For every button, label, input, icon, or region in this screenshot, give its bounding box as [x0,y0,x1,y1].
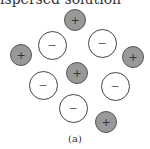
negative-ion-icon: − [38,31,67,60]
positive-ion-icon: + [10,44,32,66]
positive-ion-icon: + [95,111,117,133]
negative-ion-icon: − [88,29,117,58]
positive-ion-icon: + [64,9,86,31]
negative-ion-icon: − [29,71,58,100]
negative-ion-icon: − [101,72,130,101]
positive-ion-icon: + [122,46,144,68]
cropped-heading-text: ispersed solution [0,0,121,7]
figure-caption: (a) [0,133,150,144]
positive-ion-icon: + [66,62,88,84]
negative-ion-icon: − [59,94,88,123]
